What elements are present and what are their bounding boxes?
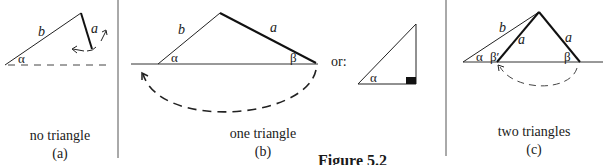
label-or: or: (331, 54, 347, 69)
label-angle-beta-prime: β′ (490, 49, 500, 64)
label-side-b: b (178, 22, 185, 37)
caption-text: no triangle (20, 127, 100, 145)
figure-title: Figure 5.2 (318, 152, 387, 165)
panel-c-drawing: b a a α β′ β (463, 12, 603, 86)
label-side-a: a (91, 21, 98, 36)
caption-panel-c: two triangles (c) (484, 123, 584, 159)
caption-letter: (a) (20, 145, 100, 163)
caption-text: one triangle (218, 125, 308, 143)
label-side-a-right: a (565, 30, 572, 45)
label-angle-alpha-alt: α (370, 70, 377, 85)
label-angle-alpha: α (18, 51, 25, 66)
caption-panel-a: no triangle (a) (20, 127, 100, 163)
caption-panel-b: one triangle (b) (218, 125, 308, 161)
caption-letter: (c) (484, 141, 584, 159)
label-side-a: a (270, 20, 277, 35)
label-angle-alpha: α (476, 49, 483, 64)
label-side-b: b (499, 20, 506, 35)
label-angle-alpha: α (171, 50, 178, 65)
panel-b-drawing: b a α β or: α (131, 13, 416, 112)
caption-letter: (b) (218, 143, 308, 161)
label-angle-beta: β (290, 50, 297, 65)
arrow-up-icon (101, 30, 107, 41)
panel-a-drawing: b a α (5, 13, 112, 66)
arrow-left-icon (72, 46, 84, 53)
label-angle-beta: β (564, 49, 571, 64)
right-angle-marker (406, 77, 416, 84)
caption-text: two triangles (484, 123, 584, 141)
label-side-a-left: a (518, 32, 525, 47)
label-side-b: b (38, 24, 45, 39)
